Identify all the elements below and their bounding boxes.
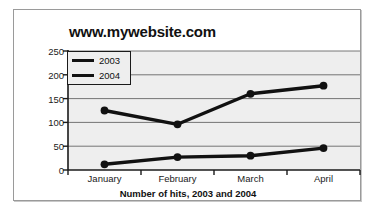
- chart-frame: www.mywebsite.com: [13, 9, 361, 201]
- data-point-2004-january: [101, 107, 109, 115]
- data-point-2004-april: [320, 82, 328, 90]
- data-point-2004-february: [174, 120, 182, 128]
- legend-swatch-2004: [72, 74, 94, 78]
- legend-label-2003: 2003: [99, 55, 120, 66]
- legend-swatch-2003: [72, 59, 94, 63]
- x-axis-tick-labels: January February March April: [68, 173, 360, 189]
- y-axis-tick-labels: 250 200 150 100 50 0: [22, 10, 64, 202]
- legend-item-2003: 2003: [68, 53, 130, 68]
- series-line-2003: [101, 144, 328, 168]
- y-tick-label-50: 50: [30, 141, 64, 152]
- x-tick-label-march: March: [237, 173, 263, 184]
- data-point-2003-january: [101, 160, 109, 168]
- series-line-2004: [101, 82, 328, 128]
- y-tick-label-150: 150: [30, 94, 64, 105]
- legend-label-2004: 2004: [99, 70, 120, 81]
- x-tick-label-february: February: [158, 173, 196, 184]
- y-tick-label-0: 0: [30, 165, 64, 176]
- data-point-2003-april: [320, 144, 328, 152]
- data-point-2003-february: [174, 153, 182, 161]
- y-tick-label-250: 250: [30, 46, 64, 57]
- x-tick-label-january: January: [88, 173, 122, 184]
- x-tick-label-april: April: [314, 173, 333, 184]
- chart-legend: 2003 2004: [67, 51, 131, 85]
- legend-item-2004: 2004: [68, 68, 130, 83]
- chart-caption: Number of hits, 2003 and 2004: [14, 188, 362, 199]
- data-point-2003-march: [247, 152, 255, 160]
- y-tick-label-100: 100: [30, 117, 64, 128]
- y-tick-label-200: 200: [30, 70, 64, 81]
- data-point-2004-march: [247, 90, 255, 98]
